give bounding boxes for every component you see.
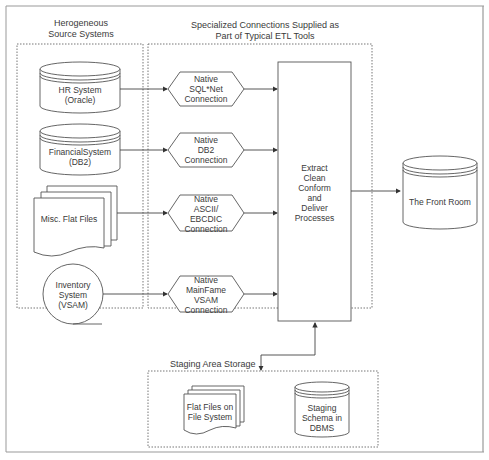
front-room-label: The Front Room bbox=[403, 197, 477, 207]
inventory-system-label: Inventory System (VSAM) bbox=[43, 280, 103, 310]
front-room-cylinder bbox=[403, 156, 477, 229]
ascii-ebcdic-connection-label: Native ASCII/ EBCDIC Connection bbox=[180, 194, 232, 234]
mainframe-vsam-connection-label: Native MainFame VSAM Connection bbox=[180, 275, 232, 315]
financial-system-label: FinancialSystem (DB2) bbox=[36, 147, 124, 167]
hr-system-label: HR System (Oracle) bbox=[40, 85, 120, 105]
connection-arrows bbox=[244, 89, 277, 294]
staging-flat-files-label: Flat Files on File System bbox=[184, 402, 236, 422]
etl-diagram-canvas bbox=[0, 0, 489, 460]
staging-schema-label: Staging Schema in DBMS bbox=[295, 403, 349, 433]
misc-flat-files-label: Misc. Flat Files bbox=[34, 214, 104, 224]
sqlnet-connection-label: Native SQL*Net Connection bbox=[180, 74, 232, 104]
sources-section-title: Herogeneous Source Systems bbox=[25, 18, 137, 40]
etl-process-label: Extract Clean Conform and Deliver Proces… bbox=[278, 163, 351, 223]
connections-section-title: Specialized Connections Supplied as Part… bbox=[160, 20, 370, 42]
staging-section-title: Staging Area Storage bbox=[170, 359, 270, 370]
db2-connection-label: Native DB2 Connection bbox=[180, 135, 232, 165]
